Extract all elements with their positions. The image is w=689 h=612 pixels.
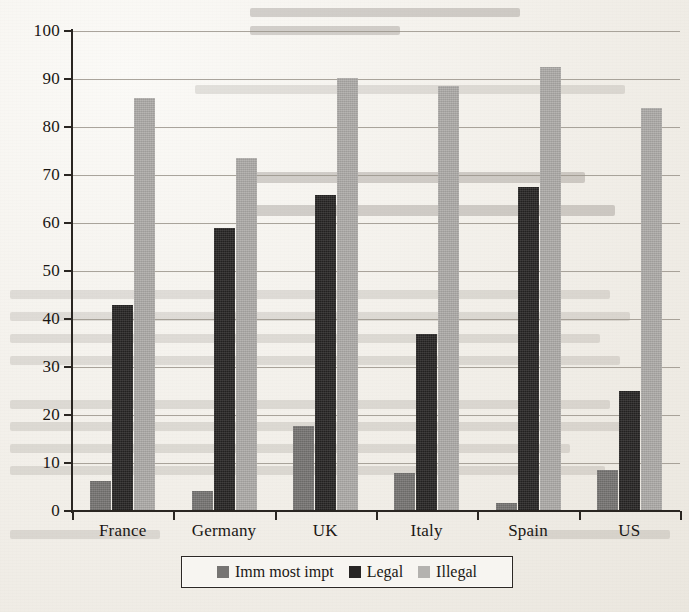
legend-item-imm-most-impt: Imm most impt xyxy=(217,564,334,580)
plot-area xyxy=(72,31,680,511)
bar-us-legal xyxy=(619,391,640,511)
y-axis-label: 0 xyxy=(14,502,60,519)
legend-label: Legal xyxy=(367,564,403,580)
bar-france-imm-most-impt xyxy=(90,481,111,511)
x-axis-label-germany: Germany xyxy=(173,521,274,540)
bar-france-legal xyxy=(112,305,133,511)
x-axis-tick xyxy=(72,511,74,520)
gridline xyxy=(72,271,680,272)
bar-germany-imm-most-impt xyxy=(192,491,213,511)
x-axis-tick xyxy=(173,511,175,520)
x-axis-label-uk: UK xyxy=(275,521,376,540)
gridline xyxy=(72,79,680,80)
y-axis-tick xyxy=(64,414,73,416)
y-axis-tick xyxy=(64,222,73,224)
chart-legend: Imm most imptLegalIllegal xyxy=(181,556,513,588)
bar-us-illegal xyxy=(641,108,662,511)
y-axis-tick xyxy=(64,126,73,128)
x-axis-label-spain: Spain xyxy=(477,521,578,540)
bar-italy-legal xyxy=(416,334,437,511)
y-axis-tick xyxy=(64,174,73,176)
bar-italy-illegal xyxy=(438,86,459,511)
y-axis-label: 90 xyxy=(14,70,60,87)
bar-uk-imm-most-impt xyxy=(293,426,314,511)
gridline xyxy=(72,367,680,368)
y-axis-tick xyxy=(64,318,73,320)
gridline xyxy=(72,127,680,128)
bar-germany-legal xyxy=(214,228,235,511)
x-axis-label-us: US xyxy=(579,521,680,540)
x-axis-tick xyxy=(680,511,682,520)
legend-swatch-illegal-icon xyxy=(418,566,430,578)
bar-uk-legal xyxy=(315,195,336,511)
legend-swatch-legal-icon xyxy=(349,566,361,578)
bar-uk-illegal xyxy=(337,78,358,511)
y-axis-label: 40 xyxy=(14,310,60,327)
bar-spain-legal xyxy=(518,187,539,511)
y-axis-label: 80 xyxy=(14,118,60,135)
y-axis-tick xyxy=(64,270,73,272)
gridline xyxy=(72,223,680,224)
bar-chart: 0102030405060708090100 FranceGermanyUKIt… xyxy=(0,0,689,612)
y-axis-label: 20 xyxy=(14,406,60,423)
y-axis-label: 10 xyxy=(14,454,60,471)
bar-spain-illegal xyxy=(540,67,561,511)
x-axis-tick xyxy=(579,511,581,520)
y-axis-tick xyxy=(64,30,73,32)
y-axis-tick xyxy=(64,462,73,464)
legend-item-illegal: Illegal xyxy=(418,564,477,580)
legend-label: Illegal xyxy=(436,564,477,580)
legend-label: Imm most impt xyxy=(235,564,334,580)
y-axis-label: 50 xyxy=(14,262,60,279)
x-axis-tick xyxy=(275,511,277,520)
gridline xyxy=(72,463,680,464)
legend-item-legal: Legal xyxy=(349,564,403,580)
y-axis-tick xyxy=(64,366,73,368)
x-axis-tick xyxy=(477,511,479,520)
y-axis-label: 30 xyxy=(14,358,60,375)
gridline xyxy=(72,415,680,416)
bar-us-imm-most-impt xyxy=(597,470,618,511)
gridline xyxy=(72,175,680,176)
y-axis-label: 60 xyxy=(14,214,60,231)
bar-germany-illegal xyxy=(236,158,257,511)
bar-italy-imm-most-impt xyxy=(394,473,415,511)
y-axis-label: 70 xyxy=(14,166,60,183)
bar-france-illegal xyxy=(134,98,155,511)
x-axis-label-italy: Italy xyxy=(376,521,477,540)
x-axis-label-france: France xyxy=(72,521,173,540)
y-axis-label: 100 xyxy=(14,22,60,39)
y-axis-tick xyxy=(64,78,73,80)
gridline xyxy=(72,319,680,320)
x-axis-tick xyxy=(376,511,378,520)
legend-swatch-imm-most-impt-icon xyxy=(217,566,229,578)
gridline xyxy=(72,31,680,32)
